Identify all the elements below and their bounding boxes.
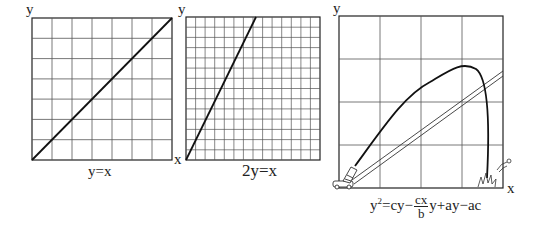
- caption-y: y: [370, 197, 378, 213]
- chart-1-y-axis-label: y: [26, 2, 34, 17]
- chart-3-x-axis-label: x: [507, 181, 515, 196]
- cannon-icon: [333, 167, 357, 189]
- chart-2-caption: 2y=x: [242, 162, 277, 179]
- chart-3-trajectory: [355, 66, 488, 178]
- chart-1-line: [32, 18, 172, 160]
- chart-3-grid: [339, 16, 503, 188]
- chart-2-grid: [186, 17, 320, 160]
- chart-1-caption: y=x: [88, 164, 111, 179]
- chart-3-barrel-line-1: [352, 71, 503, 180]
- caption-right: y+ay−ac: [429, 197, 481, 213]
- chart-3-caption: y2=cy−cxby+ay−ac: [370, 193, 481, 220]
- caption-mid: =cy−: [382, 197, 413, 213]
- fraction-denominator: b: [414, 207, 428, 220]
- fraction-numerator: cx: [414, 193, 428, 207]
- chart-1-x-axis-label: x: [174, 152, 182, 167]
- chart-2-y-axis-label: y: [178, 2, 186, 17]
- chart-3-y-axis-label: y: [333, 1, 341, 16]
- chart-3-barrel-line-2: [354, 76, 503, 184]
- caption-fraction: cxb: [414, 193, 428, 220]
